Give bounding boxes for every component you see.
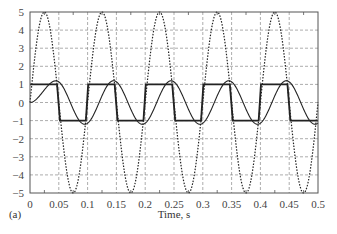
y-tick-label: −1 (12, 115, 24, 127)
y-tick-label: 4 (19, 24, 25, 36)
x-tick-label: 0.35 (222, 198, 242, 210)
y-tick-label: 2 (19, 60, 25, 72)
x-tick-label: 0 (27, 198, 33, 210)
chart: 00.050.10.150.20.250.30.350.40.450.5 543… (0, 0, 337, 234)
panel-label: (a) (9, 208, 22, 221)
y-tick-label: −5 (12, 187, 24, 199)
y-tick-label: −4 (12, 169, 24, 181)
x-tick-label: 0.5 (311, 198, 325, 210)
x-tick-label: 0.15 (107, 198, 127, 210)
x-tick-label: 0.45 (280, 198, 300, 210)
x-tick-label: 0.4 (254, 198, 268, 210)
y-tick-label: −2 (12, 133, 24, 145)
x-tick-label: 0.3 (196, 198, 210, 210)
x-tick-label: 0.1 (81, 198, 95, 210)
y-tick-label: 0 (19, 97, 25, 109)
x-tick-label: 0.05 (49, 198, 69, 210)
y-tick-label: 1 (19, 78, 25, 90)
y-tick-label: −3 (12, 151, 24, 163)
x-axis-label: Time, s (158, 208, 191, 220)
y-axis-tick-labels: 543210−1−2−3−4−5 (12, 6, 24, 199)
x-tick-label: 0.2 (138, 198, 152, 210)
y-tick-label: 5 (19, 6, 25, 18)
y-tick-label: 3 (19, 42, 25, 54)
